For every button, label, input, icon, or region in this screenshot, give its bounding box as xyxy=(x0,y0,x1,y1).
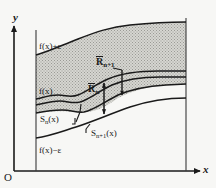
x-axis-label: x xyxy=(203,164,209,175)
partial-sum-n-plus-1-subscript: n+1 xyxy=(96,132,106,139)
remainder-n-plus-1-label: Rn+1 xyxy=(96,56,115,68)
partial-sum-n-arg: (x) xyxy=(48,114,59,124)
y-axis-label: y xyxy=(13,12,18,23)
upper-bound-label: f(x)+ε xyxy=(39,42,61,51)
remainder-n-subscript: n xyxy=(95,88,99,96)
uniform-convergence-diagram: y x O f(x)+ε f(x) f(x)−ε Rn+1 Rn Sn(x) S… xyxy=(0,0,216,188)
diagram-canvas xyxy=(0,0,216,188)
remainder-n-label: Rn xyxy=(88,83,99,95)
function-label: f(x) xyxy=(39,87,53,96)
partial-sum-n-plus-1-arg: (x) xyxy=(106,128,117,138)
partial-sum-n-plus-1-label: Sn+1(x) xyxy=(91,129,117,138)
lower-bound-label: f(x)−ε xyxy=(39,146,61,155)
origin-label: O xyxy=(4,172,12,183)
partial-sum-n-subscript: n xyxy=(45,118,48,125)
remainder-n-plus-1-subscript: n+1 xyxy=(103,61,114,69)
partial-sum-n-label: Sn(x) xyxy=(40,115,59,124)
